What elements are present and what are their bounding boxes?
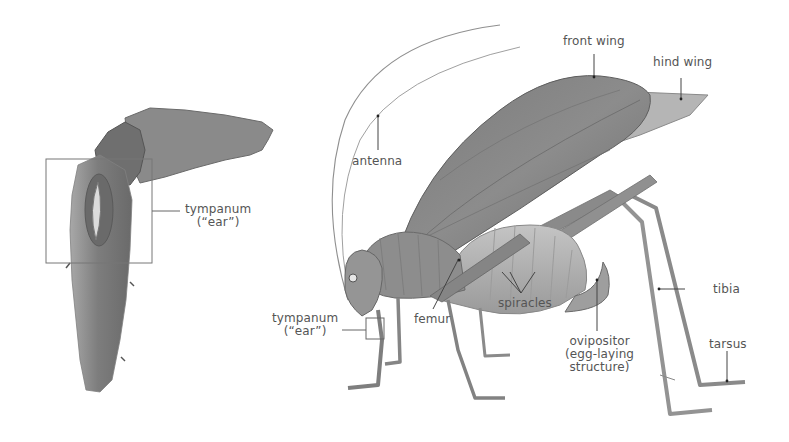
- katydid-illustration: [332, 25, 745, 414]
- tarsus-label: tarsus: [709, 338, 747, 351]
- hind-wing-label: hind wing: [653, 56, 712, 69]
- inset-tympanum-label-line2: (“ear”): [185, 216, 251, 229]
- front-wing-label: front wing: [563, 35, 625, 48]
- ovipositor-label-line3: structure): [565, 361, 634, 374]
- tympanum-label-line2: (“ear”): [272, 325, 338, 338]
- front-leg-1: [348, 310, 382, 388]
- spiracles-label: spiracles: [498, 297, 552, 310]
- femur-label: femur: [414, 313, 450, 326]
- inset-femur: [125, 108, 273, 183]
- antenna-label: antenna: [352, 155, 402, 168]
- inset-foreleg: [46, 108, 273, 392]
- mid-leg-2: [480, 308, 510, 356]
- front-leg-2: [385, 298, 400, 364]
- compound-eye: [349, 274, 357, 282]
- ovipositor-label: ovipositor (egg-laying structure): [565, 335, 634, 374]
- head: [345, 250, 382, 316]
- mid-leg-1: [448, 300, 505, 398]
- tympanum-label: tympanum (“ear”): [272, 312, 338, 338]
- inset-tympanum-label: tympanum (“ear”): [185, 203, 251, 229]
- tibia-label: tibia: [713, 283, 740, 296]
